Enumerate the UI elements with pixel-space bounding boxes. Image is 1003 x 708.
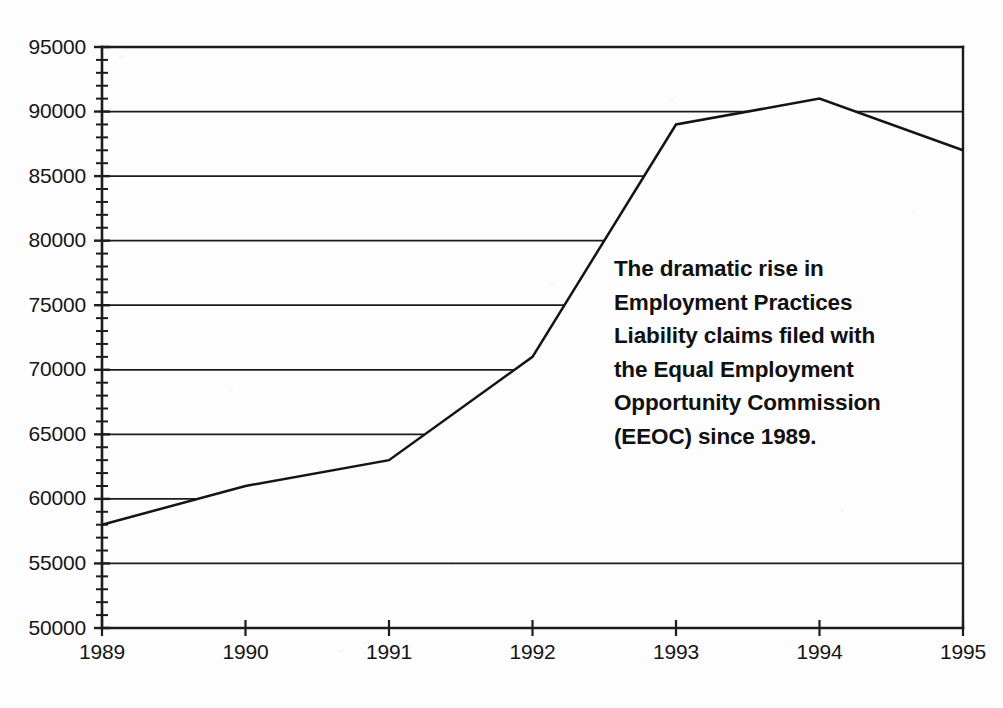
x-axis-labels-group: 1989199019911992199319941995 (79, 640, 986, 663)
y-axis-label-95000: 95000 (29, 35, 86, 58)
chart-container: 5000055000600006500070000750008000085000… (0, 0, 1003, 708)
annotation-line-3: Liability claims filed with (614, 319, 944, 353)
y-axis-label-75000: 75000 (29, 293, 86, 316)
x-axis-label-1994: 1994 (797, 640, 843, 663)
y-axis-labels-group: 5000055000600006500070000750008000085000… (29, 35, 86, 639)
annotation-line-4: the Equal Employment (614, 353, 944, 387)
annotation-line-1: The dramatic rise in (614, 252, 944, 286)
y-axis-label-80000: 80000 (29, 228, 86, 251)
annotation-line-2: Employment Practices (614, 286, 944, 320)
y-axis-label-70000: 70000 (29, 357, 86, 380)
y-axis-label-90000: 90000 (29, 99, 86, 122)
x-axis-label-1989: 1989 (79, 640, 125, 663)
x-axis-label-1991: 1991 (366, 640, 412, 663)
annotation-line-5: Opportunity Commission (614, 386, 944, 420)
chart-annotation: The dramatic rise inEmployment Practices… (614, 252, 944, 453)
annotation-line-6: (EEOC) since 1989. (614, 420, 944, 454)
y-axis-label-65000: 65000 (29, 422, 86, 445)
y-axis-label-85000: 85000 (29, 164, 86, 187)
x-axis-label-1993: 1993 (653, 640, 699, 663)
y-axis-label-55000: 55000 (29, 551, 86, 574)
y-axis-label-60000: 60000 (29, 486, 86, 509)
x-axis-label-1992: 1992 (510, 640, 556, 663)
y-axis-label-50000: 50000 (29, 616, 86, 639)
x-axis-label-1990: 1990 (223, 640, 269, 663)
x-axis-label-1995: 1995 (940, 640, 986, 663)
